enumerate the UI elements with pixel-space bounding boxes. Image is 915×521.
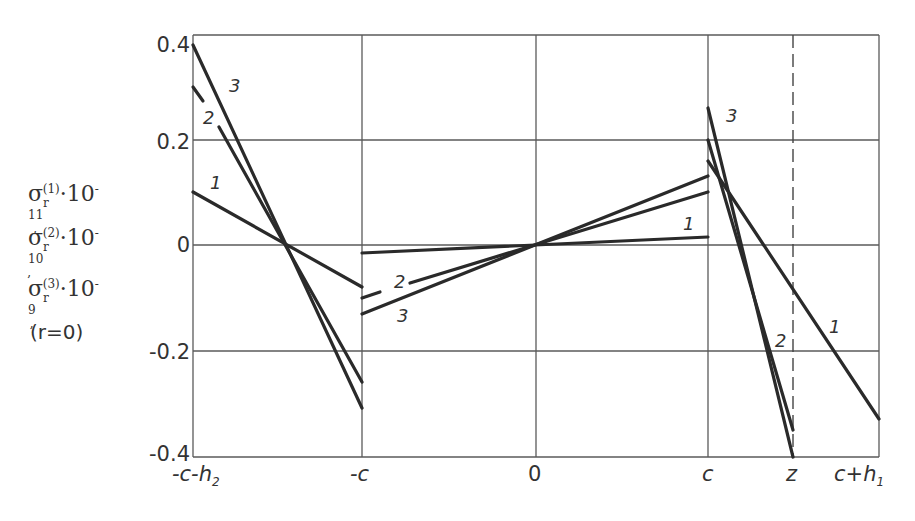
curve-label-2-right: 2: [775, 330, 786, 351]
x-tick-minus-c: -c: [350, 462, 369, 486]
y-axis-label-line-2: σr(2)·10-10,: [28, 227, 102, 278]
x-tick-minus-c-minus-h2: -c-h2: [172, 462, 220, 489]
y-tick-0.2: 0.2: [130, 130, 190, 154]
curve-label-1-left: 1: [210, 172, 221, 193]
curve-label-3-right: 3: [726, 105, 737, 126]
curve-label-3-mid: 3: [397, 305, 408, 326]
curve-label-2-left: 2: [203, 107, 214, 128]
series-3: [193, 45, 793, 457]
y-axis-label-line-4: (r=0): [30, 322, 83, 342]
curve-label-3-left: 3: [229, 75, 240, 96]
series-2: [193, 87, 793, 430]
curve-label-1-mid: 1: [683, 213, 694, 234]
curve-label-1-right: 1: [829, 316, 840, 337]
x-tick-c: c: [702, 462, 714, 486]
y-tick-0.4: 0.4: [130, 33, 190, 57]
x-tick-zero: 0: [528, 462, 541, 486]
y-tick-neg0.2: -0.2: [130, 340, 190, 364]
curve-label-2-mid: 2: [394, 271, 405, 292]
x-tick-c-plus-h1: c+h1: [834, 462, 884, 489]
y-tick-0: 0: [130, 233, 190, 257]
x-tick-z: z: [786, 462, 797, 486]
